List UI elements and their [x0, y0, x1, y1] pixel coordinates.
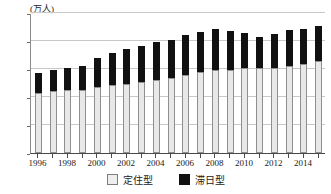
bar-1997	[50, 13, 57, 153]
bar-2012	[271, 13, 278, 153]
bar-segment-stay-2003	[138, 46, 145, 83]
x-tick-label-2002: 2002	[117, 158, 135, 168]
bar-2011	[256, 13, 263, 153]
bar-segment-resident-1996	[35, 93, 42, 153]
bar-segment-stay-2015	[315, 26, 322, 61]
bar-2008	[212, 13, 219, 153]
x-tick-mark-2009	[229, 154, 230, 158]
stacked-bar-chart: (万人) 050100150200250 1996199820002002200…	[0, 0, 331, 194]
bar-segment-stay-2013	[286, 30, 293, 66]
x-tick-mark-2015	[318, 154, 319, 158]
bar-segment-resident-1998	[64, 90, 71, 153]
x-tick-mark-2005	[170, 154, 171, 158]
bar-segment-stay-2004	[153, 42, 160, 80]
bar-segment-resident-2004	[153, 80, 160, 153]
bar-2005	[168, 13, 175, 153]
legend-item-stay[interactable]: 滞日型	[179, 172, 225, 187]
y-tick-mark-200	[27, 42, 30, 43]
light-square-icon	[107, 174, 118, 185]
bar-2009	[227, 13, 234, 153]
bar-segment-stay-2006	[182, 35, 189, 75]
bar-segment-stay-2014	[300, 29, 307, 64]
bar-segment-stay-2009	[227, 31, 234, 69]
bar-segment-stay-2007	[197, 32, 204, 73]
bar-segment-resident-2014	[300, 64, 307, 153]
bar-2006	[182, 13, 189, 153]
x-tick-label-2010: 2010	[235, 158, 253, 168]
x-tick-label-1998: 1998	[58, 158, 76, 168]
x-tick-label-2008: 2008	[205, 158, 223, 168]
x-tick-mark-2003	[141, 154, 142, 158]
bar-segment-resident-2013	[286, 66, 293, 153]
bar-2013	[286, 13, 293, 153]
x-tick-label-1996: 1996	[28, 158, 46, 168]
legend-label-resident: 定住型	[123, 172, 153, 187]
bar-segment-resident-2011	[256, 68, 263, 153]
x-tick-mark-2001	[111, 154, 112, 158]
bar-2015	[315, 13, 322, 153]
bar-1998	[64, 13, 71, 153]
bar-segment-resident-2015	[315, 61, 322, 153]
bar-segment-stay-1999	[79, 66, 86, 90]
bar-segment-resident-2012	[271, 68, 278, 153]
bar-segment-resident-1997	[50, 91, 57, 153]
bar-segment-stay-2001	[109, 53, 116, 85]
bar-segment-resident-2007	[197, 72, 204, 153]
bar-segment-resident-2006	[182, 75, 189, 153]
x-tick-mark-2013	[288, 154, 289, 158]
x-tick-label-2012: 2012	[264, 158, 282, 168]
bar-2003	[138, 13, 145, 153]
x-tick-label-2006: 2006	[176, 158, 194, 168]
bar-segment-resident-2009	[227, 70, 234, 153]
x-tick-mark-1999	[82, 154, 83, 158]
y-tick-mark-250	[27, 14, 30, 15]
bar-segment-resident-1999	[79, 90, 86, 153]
bar-segment-stay-2002	[123, 49, 130, 84]
gridline-250	[31, 12, 325, 13]
bar-segment-resident-2003	[138, 82, 145, 153]
y-tick-mark-50	[27, 126, 30, 127]
x-tick-label-2014: 2014	[294, 158, 312, 168]
chart-legend: 定住型滞日型	[0, 172, 331, 187]
x-tick-mark-2007	[200, 154, 201, 158]
bar-segment-stay-2008	[212, 29, 219, 70]
bar-segment-resident-2010	[241, 68, 248, 153]
legend-label-stay: 滞日型	[195, 172, 225, 187]
y-tick-mark-150	[27, 70, 30, 71]
bar-segment-stay-2010	[241, 33, 248, 68]
bar-2007	[197, 13, 204, 153]
x-tick-label-2004: 2004	[146, 158, 164, 168]
y-tick-mark-0	[27, 154, 30, 155]
bar-segment-resident-2005	[168, 78, 175, 153]
bar-segment-stay-1997	[50, 70, 57, 91]
bar-segment-resident-2001	[109, 85, 116, 153]
bar-1999	[79, 13, 86, 153]
bar-segment-stay-2005	[168, 40, 175, 78]
x-tick-mark-1997	[52, 154, 53, 158]
bar-2014	[300, 13, 307, 153]
bars-group	[31, 14, 325, 153]
bar-2002	[123, 13, 130, 153]
bar-segment-stay-2012	[271, 34, 278, 68]
legend-item-resident[interactable]: 定住型	[107, 172, 153, 187]
x-tick-mark-2011	[259, 154, 260, 158]
x-tick-label-2000: 2000	[87, 158, 105, 168]
bar-segment-resident-2008	[212, 70, 219, 153]
plot-area	[30, 14, 325, 154]
bar-1996	[35, 13, 42, 153]
bar-2004	[153, 13, 160, 153]
dark-square-icon	[179, 174, 190, 185]
bar-2010	[241, 13, 248, 153]
bar-segment-stay-1996	[35, 73, 42, 93]
bar-segment-stay-1998	[64, 68, 71, 90]
bar-segment-resident-2002	[123, 84, 130, 153]
bar-2000	[94, 13, 101, 153]
bar-2001	[109, 13, 116, 153]
bar-segment-stay-2000	[94, 58, 101, 87]
bar-segment-stay-2011	[256, 37, 263, 69]
bar-segment-resident-2000	[94, 87, 101, 153]
y-tick-mark-100	[27, 98, 30, 99]
